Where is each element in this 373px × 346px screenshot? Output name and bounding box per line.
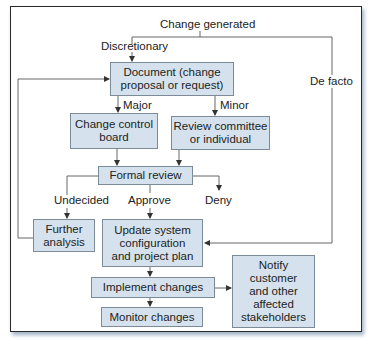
node-update-system: Update system configuration and project …	[102, 219, 203, 267]
node-review-committee: Review committee or individual	[171, 116, 270, 150]
node-document: Document (change proposal or request)	[110, 62, 234, 96]
edge-label-deny: Deny	[205, 194, 232, 207]
start-label-change-generated: Change generated	[160, 18, 255, 31]
node-change-control-board: Change control board	[70, 113, 158, 149]
edge-label-undecided: Undecided	[54, 194, 109, 207]
edge-label-approve: Approve	[128, 194, 171, 207]
edge-label-de-facto: De facto	[310, 75, 353, 88]
node-further-analysis: Further analysis	[33, 219, 95, 252]
node-notify-stakeholders: Notify customer and other affected stake…	[232, 255, 315, 328]
edge-label-discretionary: Discretionary	[101, 40, 168, 53]
edge-label-major: Major	[123, 99, 152, 112]
node-implement-changes: Implement changes	[91, 277, 215, 298]
node-formal-review: Formal review	[98, 166, 193, 185]
node-monitor-changes: Monitor changes	[101, 307, 203, 327]
edge-label-minor: Minor	[220, 99, 249, 112]
